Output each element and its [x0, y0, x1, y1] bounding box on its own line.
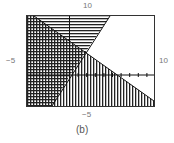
- graph-screen: [0, 0, 174, 143]
